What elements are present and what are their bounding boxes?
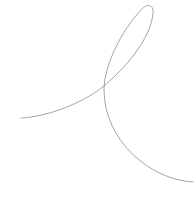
figure-canvas (0, 0, 196, 203)
loop-curve-svg (0, 0, 196, 203)
loop-curve (21, 5, 193, 182)
